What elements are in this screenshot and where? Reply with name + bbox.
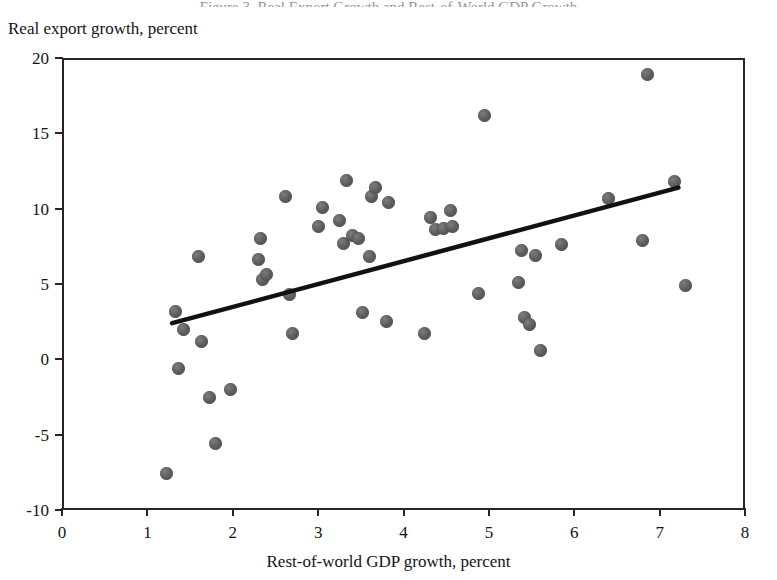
plot-area: -10-505101520 012345678 [62, 58, 745, 510]
scatter-point [172, 362, 185, 375]
scatter-point [555, 238, 568, 251]
scatter-point [195, 335, 208, 348]
scatter-point [209, 437, 222, 450]
scatter-point [641, 68, 654, 81]
y-tick-mark [55, 434, 63, 436]
scatter-point [478, 109, 491, 122]
x-tick-label: 0 [58, 524, 67, 541]
scatter-point [160, 467, 173, 480]
x-tick-mark [317, 508, 319, 516]
scatter-point [279, 190, 292, 203]
x-tick-label: 1 [143, 524, 152, 541]
x-tick-mark [573, 508, 575, 516]
y-tick-mark [55, 57, 63, 59]
y-tick-mark [55, 283, 63, 285]
scatter-point [523, 318, 536, 331]
x-tick-mark [659, 508, 661, 516]
scatter-point [316, 201, 329, 214]
y-tick-mark [55, 132, 63, 134]
plot-frame-right [743, 58, 745, 510]
scatter-point [352, 232, 365, 245]
x-tick-mark [488, 508, 490, 516]
scatter-point [529, 249, 542, 262]
x-tick-label: 7 [655, 524, 664, 541]
x-tick-label: 2 [229, 524, 238, 541]
scatter-point [380, 315, 393, 328]
x-axis-title: Rest-of-world GDP growth, percent [0, 552, 777, 572]
scatter-point [340, 174, 353, 187]
x-tick-label: 4 [399, 524, 408, 541]
scatter-point [369, 181, 382, 194]
x-tick-mark [403, 508, 405, 516]
x-tick-mark [744, 508, 746, 516]
scatter-point [636, 234, 649, 247]
scatter-point [192, 250, 205, 263]
x-tick-mark [61, 508, 63, 516]
x-tick-mark [146, 508, 148, 516]
y-tick-label: 20 [32, 50, 49, 67]
scatter-point [252, 253, 265, 266]
scatter-point [286, 327, 299, 340]
plot-frame-top [62, 58, 745, 60]
x-tick-label: 6 [570, 524, 579, 541]
scatter-point [424, 211, 437, 224]
y-tick-mark [55, 358, 63, 360]
chart-figure: Figure 3. Real Export Growth and Rest-of… [0, 0, 777, 580]
y-axis-title: Real export growth, percent [8, 19, 198, 39]
scatter-point [356, 306, 369, 319]
y-tick-label: -10 [26, 502, 49, 519]
scatter-point [363, 250, 376, 263]
y-tick-label: 15 [32, 125, 49, 142]
scatter-point [679, 279, 692, 292]
scatter-point [418, 327, 431, 340]
scatter-point [177, 323, 190, 336]
x-tick-label: 5 [485, 524, 494, 541]
scatter-point [512, 276, 525, 289]
scatter-point [283, 288, 296, 301]
scatter-point [446, 220, 459, 233]
x-tick-mark [232, 508, 234, 516]
scatter-point [312, 220, 325, 233]
scatter-point [169, 305, 182, 318]
y-tick-mark [55, 208, 63, 210]
clipped-figure-title: Figure 3. Real Export Growth and Rest-of… [0, 0, 777, 7]
scatter-point [382, 196, 395, 209]
y-tick-label: 5 [41, 276, 50, 293]
x-tick-label: 8 [741, 524, 750, 541]
scatter-point [668, 175, 681, 188]
trendline [62, 58, 745, 510]
y-tick-label: 0 [41, 351, 50, 368]
scatter-point [333, 214, 346, 227]
scatter-point [444, 204, 457, 217]
y-tick-label: -5 [35, 426, 49, 443]
y-tick-label: 10 [32, 200, 49, 217]
scatter-point [203, 391, 216, 404]
scatter-point [260, 268, 273, 281]
scatter-point [472, 287, 485, 300]
scatter-point [515, 244, 528, 257]
scatter-point [534, 344, 547, 357]
x-tick-label: 3 [314, 524, 323, 541]
scatter-point [224, 383, 237, 396]
scatter-point [602, 192, 615, 205]
scatter-point [254, 232, 267, 245]
